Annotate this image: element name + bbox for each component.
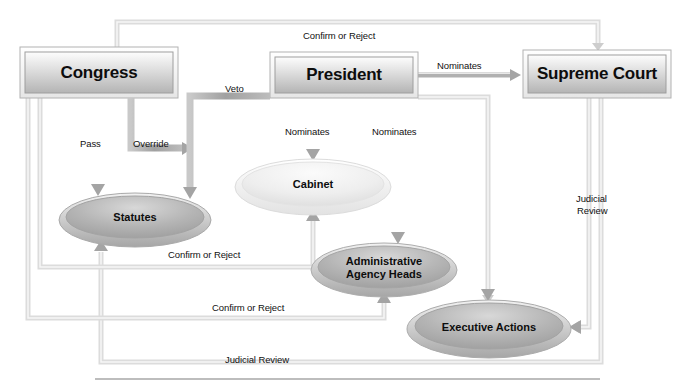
edge-judicial-review-statutes-head — [94, 240, 108, 362]
box-president[interactable] — [270, 52, 418, 98]
ellipse-executive-actions[interactable] — [407, 300, 571, 358]
edge-label-veto: Veto — [225, 84, 244, 95]
edge-label-confirm-or-reject-top: Confirm or Reject — [303, 31, 375, 42]
edge-label-nominates-cabinet: Nominates — [285, 127, 330, 138]
edge-label-judicial-review-right-line2: Review — [577, 206, 608, 217]
edge-label-judicial-review-bottom: Judicial Review — [225, 355, 289, 366]
edge-label-override: Override — [133, 139, 169, 150]
edge-president-executive-descent — [481, 110, 495, 301]
edge-president-nominates-agency-heads — [391, 98, 405, 244]
edge-label-pass: Pass — [80, 139, 101, 150]
edge-label-confirm-or-reject-cabinet: Confirm or Reject — [168, 250, 240, 261]
edge-label-nominates-supreme-court: Nominates — [437, 61, 482, 72]
edge-label-nominates-agency-heads: Nominates — [372, 127, 417, 138]
edge-judicial-review-executive-head — [569, 320, 589, 334]
box-supreme-court[interactable] — [523, 50, 671, 98]
edge-label-confirm-or-reject-agency: Confirm or Reject — [212, 303, 284, 314]
ellipse-statutes[interactable] — [59, 193, 211, 247]
edge-label-judicial-review-right-line1: Judicial — [576, 194, 607, 205]
box-congress[interactable] — [20, 47, 178, 98]
diagram-canvas: Congress President Supreme Court Statute… — [0, 0, 692, 391]
ellipse-cabinet[interactable] — [235, 159, 391, 215]
ellipse-agency-heads[interactable] — [311, 243, 457, 297]
